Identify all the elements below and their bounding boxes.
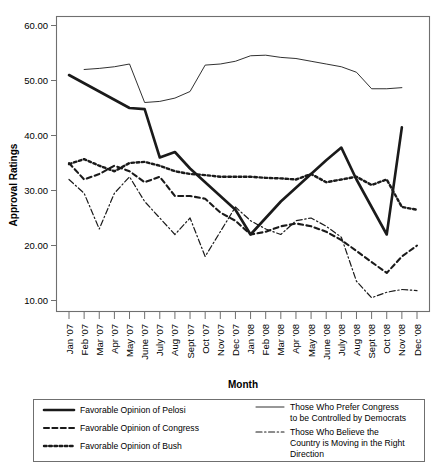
x-tick-label: Nov '07 [215, 324, 226, 356]
x-tick-label: Dec '08 [412, 324, 423, 356]
y-axis-title: Approval Ratings [8, 143, 19, 226]
legend-label: Favorable Opinion of Bush [80, 441, 182, 451]
x-tick-label: July '08 [336, 324, 347, 356]
x-tick-label: Sept '08 [366, 324, 377, 359]
series-line-1 [69, 163, 417, 273]
legend-entries: Favorable Opinion of PelosiFavorable Opi… [44, 402, 406, 459]
x-tick-label: June '07 [139, 324, 150, 360]
series-line-0 [69, 75, 402, 235]
x-tick-label: May '07 [124, 324, 135, 357]
legend-label: Favorable Opinion of Pelosi [80, 405, 186, 415]
x-tick-label: Jan '07 [64, 324, 75, 354]
approval-ratings-chart: Approval Ratings 10.0020.0030.0040.0050.… [0, 0, 446, 473]
x-tick-marks [69, 311, 417, 319]
x-tick-label: Sept '07 [185, 324, 196, 359]
x-axis-title: Month [228, 379, 258, 390]
x-tick-label: Oct '07 [200, 324, 211, 354]
x-tick-label: Feb '08 [260, 324, 271, 355]
legend-label: Direction [290, 449, 324, 459]
x-tick-label: Dec '07 [230, 324, 241, 356]
y-tick-label: 30.00 [24, 185, 48, 196]
data-series-group [69, 55, 417, 298]
y-tick-label: 60.00 [24, 20, 48, 31]
x-tick-label: Apr '07 [109, 324, 120, 354]
x-tick-label: Mar '07 [94, 324, 105, 355]
y-tick-label: 40.00 [24, 130, 48, 141]
y-tick-label: 50.00 [24, 75, 48, 86]
x-tick-label: Oct '08 [381, 324, 392, 354]
series-line-3 [84, 55, 402, 102]
x-tick-label: July '07 [154, 324, 165, 356]
x-tick-label: Nov '08 [396, 324, 407, 356]
chart-canvas: Approval Ratings 10.0020.0030.0040.0050.… [0, 0, 446, 473]
x-tick-label: Feb '07 [79, 324, 90, 355]
plot-frame [57, 17, 430, 312]
legend-label: Those Who Prefer Congress [290, 402, 399, 412]
x-tick-label: Mar '08 [275, 324, 286, 355]
x-tick-label: Aug '08 [351, 324, 362, 356]
legend-label: Favorable Opinion of Congress [80, 423, 199, 433]
x-tick-label: May '08 [306, 324, 317, 357]
x-tick-label: Aug '07 [169, 324, 180, 356]
x-tick-labels: Jan '07Feb '07Mar '07Apr '07May '07June … [64, 324, 423, 360]
legend-label: Country is Moving in the Right [290, 438, 405, 448]
y-tick-label: 10.00 [24, 295, 48, 306]
y-tick-label: 20.00 [24, 240, 48, 251]
series-line-2 [69, 159, 417, 210]
legend-label: to be Controlled by Democrats [290, 413, 406, 423]
x-tick-label: Jan '08 [245, 324, 256, 354]
legend-label: Those Who Believe the [290, 427, 379, 437]
x-tick-label: June '08 [321, 324, 332, 360]
y-tick-labels: 10.0020.0030.0040.0050.0060.00 [24, 20, 48, 306]
x-tick-label: Apr '08 [290, 324, 301, 354]
